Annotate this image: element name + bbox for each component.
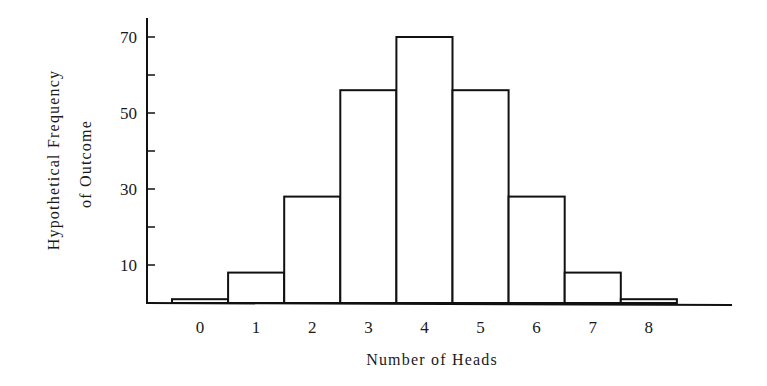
y-tick-label: 10 bbox=[120, 256, 137, 275]
x-tick-label: 4 bbox=[420, 318, 429, 337]
y-tick-label: 70 bbox=[120, 28, 137, 47]
bars bbox=[172, 37, 677, 303]
bar-6 bbox=[509, 197, 565, 303]
bar-4 bbox=[396, 37, 452, 303]
bar-3 bbox=[340, 90, 396, 303]
bar-1 bbox=[228, 273, 284, 303]
y-ticks: 10305070 bbox=[120, 28, 155, 275]
bar-7 bbox=[565, 273, 621, 303]
x-tick-label: 2 bbox=[308, 318, 317, 337]
x-tick-label: 3 bbox=[364, 318, 373, 337]
x-tick-label: 8 bbox=[645, 318, 654, 337]
y-tick-label: 30 bbox=[120, 180, 137, 199]
x-tick-label: 1 bbox=[252, 318, 261, 337]
y-axis-title: Hypothetical Frequency of Outcome bbox=[45, 70, 94, 251]
y-tick-label: 50 bbox=[120, 104, 137, 123]
x-tick-label: 7 bbox=[589, 318, 598, 337]
bar-2 bbox=[284, 197, 340, 303]
x-tick-label: 6 bbox=[532, 318, 541, 337]
x-axis-title: Number of Heads bbox=[366, 351, 498, 368]
bar-5 bbox=[453, 90, 509, 303]
x-tick-label: 0 bbox=[196, 318, 205, 337]
y-axis-title-line-1: Hypothetical Frequency bbox=[45, 70, 63, 251]
histogram-chart: 10305070 012345678 Number of Heads Hypot… bbox=[0, 0, 767, 386]
y-axis-title-line-2: of Outcome bbox=[77, 120, 94, 208]
x-tick-label: 5 bbox=[476, 318, 485, 337]
x-tick-labels: 012345678 bbox=[196, 318, 653, 337]
bar-8 bbox=[621, 299, 677, 303]
